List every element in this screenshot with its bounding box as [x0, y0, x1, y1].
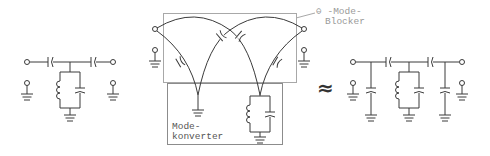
right-circuit	[347, 57, 468, 121]
mode-blocker-symbol: ⊖	[316, 6, 322, 17]
left-circuit	[21, 57, 119, 121]
mode-converter-label-line2: konverter	[172, 131, 223, 142]
mode-blocker-label-line2: Blocker	[325, 16, 365, 27]
output-terminal	[111, 60, 116, 65]
approx-symbol: ≈	[317, 76, 334, 100]
mode-blocker-box	[164, 14, 297, 83]
circuit-diagram: ⊖ -Mode- Blocker Mode- konverter ≈	[0, 0, 490, 156]
input-terminal	[25, 60, 30, 65]
